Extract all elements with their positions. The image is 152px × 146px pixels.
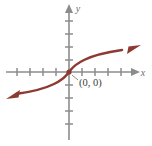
y-axis-label: y <box>75 3 81 14</box>
origin-point-dot <box>66 69 71 74</box>
x-axis-label: x <box>140 67 146 78</box>
curve-right-arrow-icon <box>127 45 141 54</box>
graph-figure: x y (0, 0) <box>0 0 152 146</box>
curve-left-arrow-icon <box>6 90 20 99</box>
origin-label-leader-line <box>72 75 78 80</box>
y-axis-arrow-icon <box>65 4 73 13</box>
x-axis-arrow-icon <box>131 68 140 76</box>
coordinate-plane-graph: x y (0, 0) <box>0 0 152 146</box>
origin-point-label: (0, 0) <box>79 77 102 89</box>
